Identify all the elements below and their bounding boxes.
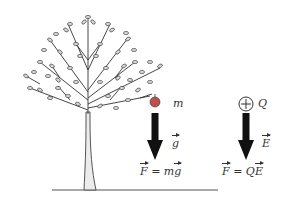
- electric-field-label: E: [262, 138, 270, 149]
- apple-icon: [150, 94, 160, 107]
- positive-charge-icon: [239, 97, 253, 111]
- gravity-field-vector: g: [172, 138, 179, 149]
- gravity-field-label: g: [172, 138, 179, 149]
- charge-label: Q: [258, 98, 267, 109]
- electric-force-arrow: [238, 113, 254, 160]
- physics-diagram: m g F = mg Q E F = QE: [0, 0, 290, 204]
- electric-force-symbol: F: [222, 166, 230, 177]
- mass-label: m: [173, 98, 183, 109]
- gravity-force-equation: F = mg: [140, 166, 181, 177]
- gravity-force-arrow: [147, 113, 163, 160]
- gravity-force-symbol: F: [140, 166, 148, 177]
- electric-force-equation: F = QE: [222, 166, 263, 177]
- electric-field-vector: E: [262, 138, 270, 149]
